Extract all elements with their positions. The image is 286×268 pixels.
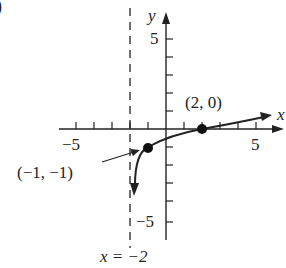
y-axis-ticks: [166, 39, 173, 222]
curve-down-arrow-icon: [130, 183, 139, 196]
x-tick-label-5: 5: [251, 135, 260, 154]
x-axis-label: x: [276, 105, 285, 124]
corner-mark: ): [0, 0, 2, 17]
y-axis: y 5 −5: [136, 6, 173, 240]
asymptote-label-text: x = −2: [99, 247, 148, 266]
y-tick-label-5: 5: [150, 29, 159, 48]
curve-right-arrow-icon: [260, 112, 272, 121]
point-neg1-neg1: [143, 143, 153, 153]
x-tick-label-neg5: −5: [62, 135, 80, 154]
point-label-neg1-neg1: (−1, −1): [17, 163, 73, 182]
x-axis-arrow-icon: [272, 125, 284, 133]
asymptote-label: x = −2: [99, 247, 148, 266]
point-2-0: [197, 124, 207, 134]
leader-line: [102, 152, 134, 162]
point-label-2-0: (2, 0): [185, 93, 222, 112]
y-axis-label: y: [146, 6, 156, 25]
graph-canvas: ) x −5 5: [0, 0, 286, 268]
y-tick-label-neg5: −5: [136, 212, 154, 231]
leader-arrow-icon: [130, 149, 140, 156]
y-axis-arrow-icon: [162, 12, 170, 24]
